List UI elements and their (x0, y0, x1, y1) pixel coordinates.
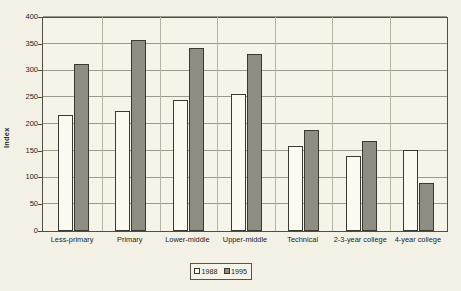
group-separator (217, 17, 218, 231)
x-axis-tick-labels: Less-primaryPrimaryLower-middleUpper-mid… (42, 236, 448, 250)
y-axis-tickmark-0 (38, 231, 42, 232)
plot-area (42, 17, 448, 232)
group-separator (102, 17, 103, 231)
legend-label-1995: 1995 (231, 268, 247, 275)
x-axis-label-2: Lower-middle (165, 236, 209, 243)
group-separator (160, 17, 161, 231)
y-axis-tick-200: 200 (12, 120, 38, 128)
x-axis-label-5: 2-3-year college (334, 236, 387, 243)
bar-group (346, 17, 377, 231)
y-axis-tick-250: 250 (12, 93, 38, 101)
y-axis-tick-labels: 050100150200250300350400 (8, 0, 38, 291)
bar (247, 54, 262, 231)
x-axis-label-1: Primary (117, 236, 142, 243)
bar (346, 156, 361, 231)
bar-group (173, 17, 204, 231)
bar (58, 115, 73, 231)
legend-item-1988: 1988 (194, 268, 218, 275)
bar-group (58, 17, 89, 231)
y-axis-tickmark-200 (38, 124, 42, 125)
bar-group (231, 17, 262, 231)
y-axis-tick-350: 350 (12, 40, 38, 48)
bar (362, 141, 377, 231)
legend-swatch-1995 (224, 268, 230, 274)
bar-group (288, 17, 319, 231)
y-axis-tickmark-100 (38, 177, 42, 178)
group-separator (275, 17, 276, 231)
y-axis-tickmark-350 (38, 44, 42, 45)
bar (288, 146, 303, 231)
bar (189, 48, 204, 231)
bar (173, 100, 188, 231)
bar (131, 40, 146, 231)
legend-swatch-1988 (194, 268, 200, 274)
y-axis-tick-50: 50 (12, 200, 38, 208)
x-axis-label-6: 4-year college (395, 236, 441, 243)
bar (74, 64, 89, 231)
y-axis-tick-300: 300 (12, 67, 38, 75)
y-axis-tickmark-300 (38, 70, 42, 71)
y-axis-tickmark-150 (38, 151, 42, 152)
bar-group (403, 17, 434, 231)
bar (115, 111, 130, 231)
y-axis-tick-100: 100 (12, 174, 38, 182)
x-axis-label-0: Less-primary (51, 236, 94, 243)
bar (419, 183, 434, 231)
x-axis-label-4: Technical (287, 236, 318, 243)
x-axis-label-3: Upper-middle (223, 236, 267, 243)
y-axis-tickmark-400 (38, 17, 42, 18)
bar-chart: Index 050100150200250300350400 Less-prim… (0, 0, 461, 291)
y-axis-tick-400: 400 (12, 13, 38, 21)
bar (304, 130, 319, 232)
y-axis-tick-150: 150 (12, 147, 38, 155)
legend-item-1995: 1995 (224, 268, 248, 275)
bar-group (115, 17, 146, 231)
y-axis-tickmark-50 (38, 204, 42, 205)
chart-legend: 19881995 (190, 263, 252, 280)
legend-label-1988: 1988 (202, 268, 218, 275)
y-axis-tick-0: 0 (12, 227, 38, 235)
group-separator (332, 17, 333, 231)
y-axis-tickmark-250 (38, 97, 42, 98)
bar (403, 150, 418, 231)
bar (231, 94, 246, 231)
group-separator (390, 17, 391, 231)
